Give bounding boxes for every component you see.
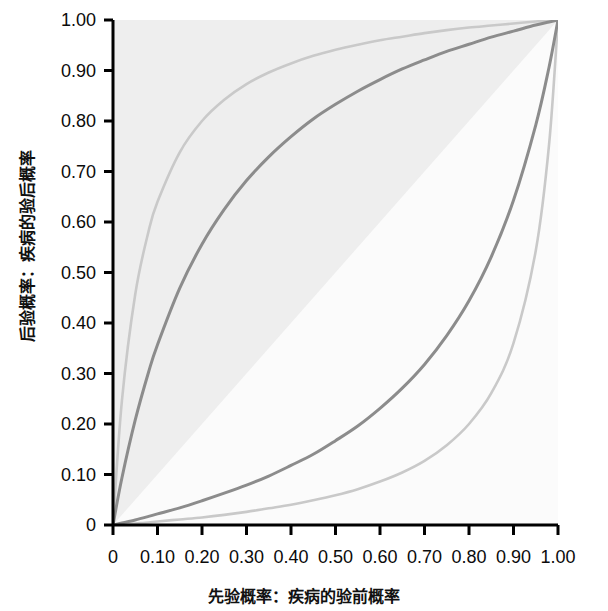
chart-figure: 后验概率：疾病的验后概率 00.100.200.300.400.500.600.…: [0, 0, 608, 611]
x-tick-label-layer: 00.100.200.300.400.500.600.700.800.901.0…: [0, 548, 608, 576]
x-tick-label: 1.00: [523, 548, 593, 566]
plot-area: [0, 0, 608, 611]
x-axis-title: 先验概率：疾病的验前概率: [0, 583, 608, 607]
